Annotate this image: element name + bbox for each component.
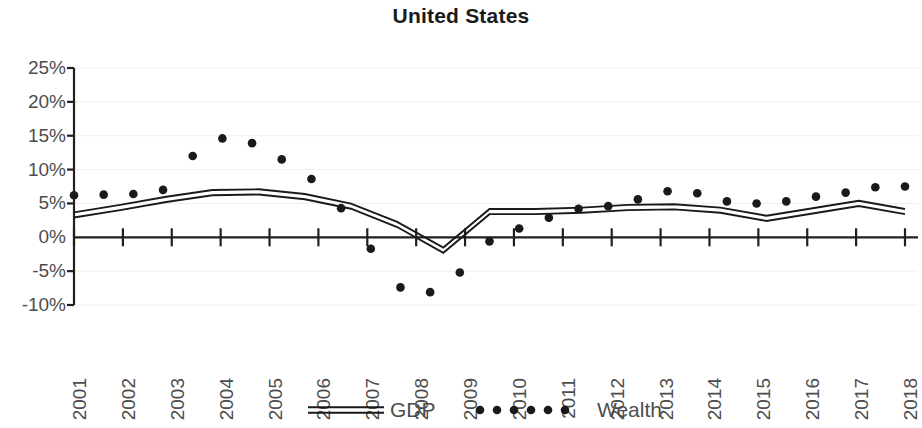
- x-axis-tick-labels: 2001200220032004200520062007200820092010…: [69, 378, 921, 421]
- chart-plot-area: 25%20%15%10%5%0%-5%-10% 2001200220032004…: [0, 0, 922, 428]
- svg-text:2014: 2014: [704, 378, 725, 421]
- svg-text:2010: 2010: [509, 378, 530, 420]
- svg-text:2002: 2002: [118, 378, 139, 420]
- svg-text:-10%: -10%: [22, 294, 66, 315]
- legend-label-gdp: GDP: [390, 398, 436, 421]
- y-axis-tick-labels: 25%20%15%10%5%0%-5%-10%: [22, 57, 66, 315]
- svg-text:2007: 2007: [362, 378, 383, 420]
- svg-text:2004: 2004: [216, 378, 237, 421]
- svg-text:2015: 2015: [753, 378, 774, 420]
- svg-text:20%: 20%: [28, 91, 66, 112]
- svg-text:2017: 2017: [851, 378, 872, 420]
- gridlines: [74, 68, 918, 305]
- svg-text:2006: 2006: [313, 378, 334, 420]
- chart-container: United States 25%20%15%10%5%0%-5%-10% 20…: [0, 0, 922, 428]
- svg-text:2001: 2001: [69, 378, 90, 420]
- svg-text:2011: 2011: [558, 378, 579, 419]
- svg-text:2009: 2009: [460, 378, 481, 420]
- svg-text:-5%: -5%: [32, 260, 66, 281]
- svg-text:2018: 2018: [900, 378, 921, 420]
- svg-text:10%: 10%: [28, 159, 66, 180]
- svg-text:0%: 0%: [39, 226, 67, 247]
- svg-text:2003: 2003: [167, 378, 188, 420]
- svg-text:15%: 15%: [28, 125, 66, 146]
- svg-text:25%: 25%: [28, 57, 66, 78]
- chart-legend: GDPWealth: [308, 398, 662, 421]
- svg-text:2005: 2005: [265, 378, 286, 420]
- svg-text:2016: 2016: [802, 378, 823, 420]
- svg-text:5%: 5%: [39, 192, 67, 213]
- legend-label-wealth: Wealth: [597, 398, 662, 421]
